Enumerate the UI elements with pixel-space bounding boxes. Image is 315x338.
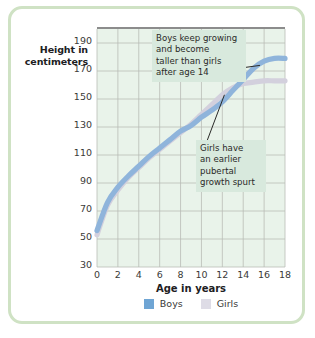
y-tick-label: 150 [58, 92, 92, 102]
annotation-boys: Boys keep growingand becometaller than g… [152, 30, 246, 82]
annotation-line: Boys keep growing [156, 33, 241, 44]
annotation-line: and become [156, 44, 241, 55]
legend-label-girls: Girls [217, 298, 239, 309]
y-tick-label: 190 [58, 36, 92, 46]
annotation-line: after age 14 [156, 67, 241, 78]
annotation-line: taller than girls [156, 56, 241, 67]
y-tick-label: 170 [58, 64, 92, 74]
y-tick-label: 90 [58, 176, 92, 186]
annotation-line: Girls have [200, 143, 261, 154]
x-tick-label: 2 [108, 270, 128, 280]
x-tick-label: 10 [191, 270, 211, 280]
legend-swatch-boys [144, 299, 154, 309]
y-tick-label: 30 [58, 260, 92, 270]
x-axis-title: Age in years [97, 283, 285, 294]
legend-entry-boys: Boys [144, 298, 183, 309]
chart-legend: BoysGirls [97, 298, 285, 309]
annotation-line: pubertal [200, 166, 261, 177]
annotation-line: growth spurt [200, 177, 261, 188]
chart-stage: Height in centimeters 190170150130110907… [0, 0, 315, 338]
x-tick-label: 6 [150, 270, 170, 280]
x-tick-label: 18 [275, 270, 295, 280]
y-tick-label: 50 [58, 232, 92, 242]
x-tick-label: 8 [171, 270, 191, 280]
annotation-girls: Girls havean earlierpubertalgrowth spurt [196, 140, 266, 192]
y-tick-label: 70 [58, 204, 92, 214]
legend-label-boys: Boys [160, 298, 183, 309]
x-tick-label: 12 [212, 270, 232, 280]
x-tick-label: 14 [233, 270, 253, 280]
x-tick-label: 16 [254, 270, 274, 280]
y-tick-label: 130 [58, 120, 92, 130]
legend-entry-girls: Girls [201, 298, 239, 309]
y-tick-label: 110 [58, 148, 92, 158]
x-tick-label: 4 [129, 270, 149, 280]
legend-swatch-girls [201, 299, 211, 309]
annotation-line: an earlier [200, 154, 261, 165]
x-tick-label: 0 [87, 270, 107, 280]
